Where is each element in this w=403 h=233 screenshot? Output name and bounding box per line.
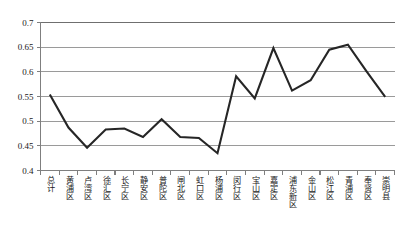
x-axis-tick-label: 闵行区	[232, 176, 240, 200]
y-axis-tick-label: 0.45	[0, 141, 34, 150]
x-axis-tick-label: 浦东新区	[288, 176, 296, 208]
x-axis-tick-label: 长宁区	[120, 176, 128, 200]
y-axis-tick-label: 0.6	[0, 67, 34, 76]
x-axis-tick-label: 杨浦区	[213, 176, 221, 200]
x-axis-tick-label: 卢湾区	[83, 176, 91, 200]
data-series-line	[50, 45, 385, 154]
y-axis-tick-label: 0.65	[0, 43, 34, 52]
x-axis-tick-label: 青浦区	[344, 176, 352, 200]
x-axis-tick-label: 总计	[46, 176, 54, 192]
x-axis-tick-label: 静安区	[139, 176, 147, 200]
y-axis-tick-label: 0.5	[0, 117, 34, 126]
x-axis-tick-label: 宝山区	[251, 176, 259, 200]
x-axis-tick-label: 奉贤区	[362, 176, 370, 200]
x-axis-tick-label: 闸北区	[176, 176, 184, 200]
line-chart: 0.70.650.60.550.50.450.4 总计黄浦区卢湾区徐汇区长宁区静…	[0, 0, 403, 233]
x-axis-tick-label: 松江区	[325, 176, 333, 200]
x-axis-tick-label: 普陀区	[157, 176, 165, 200]
y-axis-tick-label: 0.7	[0, 18, 34, 27]
x-axis-tick-label: 崇明县	[381, 176, 389, 200]
x-axis-tick-label: 金山区	[307, 176, 315, 200]
x-axis-tick-label: 黄浦区	[64, 176, 72, 200]
x-axis-tick-label: 虹口区	[195, 176, 203, 200]
y-axis-tick-label: 0.4	[0, 166, 34, 175]
y-axis-tick-label: 0.55	[0, 92, 34, 101]
x-axis-tick-label: 徐汇区	[102, 176, 110, 200]
x-axis-tick-label: 嘉定区	[269, 176, 277, 200]
